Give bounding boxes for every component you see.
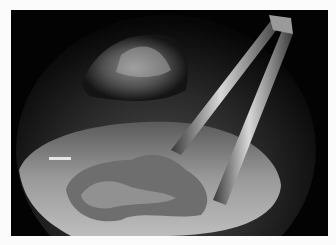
specular-reflection <box>49 157 71 160</box>
endoscopic-photo <box>11 10 328 236</box>
photo-canvas <box>11 10 328 236</box>
